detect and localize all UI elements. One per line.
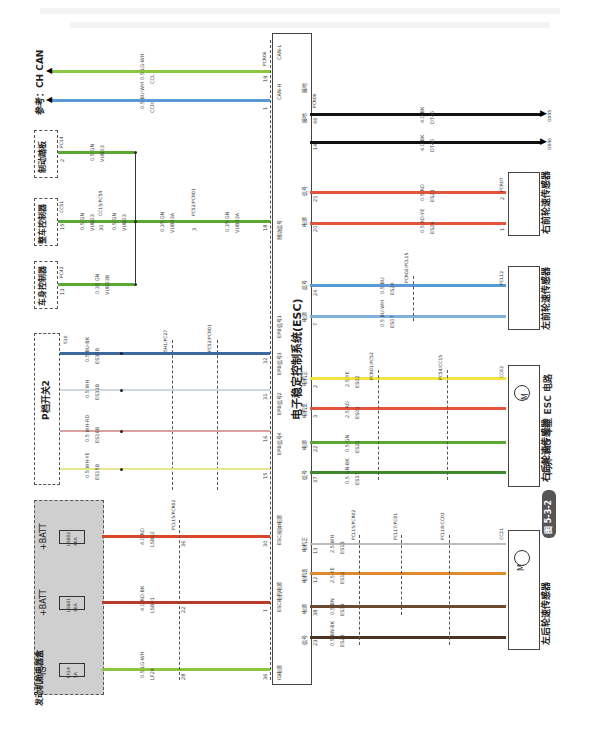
fuse-name: LSB01 — [67, 598, 72, 612]
wire-circuit: ES02 — [355, 375, 360, 388]
connector-dashed-line — [449, 535, 450, 645]
wire-spec: 0.5 WH-RD — [85, 415, 90, 442]
pin-label: IG电源 — [277, 665, 282, 680]
pin-label: 电机负 — [302, 568, 307, 583]
wire-spec: 0.35 GN — [225, 212, 230, 232]
fuse-lsb01-icon — [59, 596, 85, 610]
wire-circuit: DT46 — [430, 139, 435, 152]
esc-connector-dashed-line — [270, 40, 271, 680]
wire-circuit: VUB03 — [90, 214, 95, 231]
wire-rf-signal[interactable] — [310, 191, 506, 194]
wire-epb3[interactable] — [60, 389, 270, 391]
wire-spec: 0.5 BU — [380, 277, 385, 294]
pin-label: 制动信号 — [277, 220, 282, 240]
motor-icon: M — [514, 550, 530, 566]
connector-id: PCL18/CC03 — [441, 512, 446, 540]
wire-ground-g046[interactable] — [310, 141, 542, 144]
wire-circuit: VUB03B — [105, 275, 110, 295]
connector-id: CC51 — [60, 201, 65, 213]
pin-label: CAN-L — [277, 45, 282, 60]
module-title: 左前轮速传感器 — [542, 267, 551, 330]
wire-can-h[interactable] — [52, 99, 270, 102]
wire-rf-power[interactable] — [310, 222, 506, 225]
pin-number: 36 — [263, 674, 268, 680]
pin-number: 3 — [313, 415, 318, 418]
pin-label: EPB信号1 — [277, 315, 282, 338]
wire-lf-signal[interactable] — [310, 284, 506, 287]
wire-circuit: VUB03 — [100, 145, 105, 162]
fuse-rating: 40A — [74, 537, 79, 546]
splice-dot — [120, 430, 123, 433]
wire-lf-power[interactable] — [310, 315, 506, 318]
wire-spec: 0.5 WH — [85, 380, 90, 398]
fuse-supply-label: +BATT — [40, 523, 48, 550]
wire-rr-signal[interactable] — [310, 471, 506, 474]
pin-number: 2 — [313, 385, 318, 388]
wire-valve-power[interactable] — [102, 535, 270, 538]
wire-spec: 0.5 RD-YE — [420, 209, 425, 233]
ground-icon: ▶ — [540, 136, 547, 146]
module-title: 制动踏板 — [39, 141, 47, 173]
wire-rr-motor-neg[interactable] — [310, 407, 506, 410]
wire-spec: 0.35 GN — [95, 274, 100, 294]
wire-circuit: VUB03A — [235, 213, 240, 233]
splice-dot — [120, 468, 123, 471]
module-title: 发动机舱电器盒 — [36, 650, 44, 706]
connector-id: PCR06 — [313, 93, 318, 108]
fuse-rating: 5A — [74, 672, 79, 678]
wire-circuit: ES24 — [390, 282, 395, 295]
wire-epb1[interactable] — [60, 352, 270, 355]
connector-dashed-line — [447, 370, 448, 480]
pin-number: 37 — [313, 477, 318, 483]
wire-circuit: CCH — [150, 102, 155, 113]
pin-number: 3 — [192, 228, 197, 231]
wire-circuit: ES03 — [355, 406, 360, 419]
wire-circuit: ES26 — [430, 221, 435, 234]
pin-number: 23 — [313, 640, 318, 646]
pin-label: 电机负 — [302, 403, 307, 418]
wire-circuit: ES13 — [340, 541, 345, 554]
pin-label: 信号 — [302, 470, 307, 480]
wire-rr-motor-pos[interactable] — [310, 377, 506, 380]
pin-number: 20 — [313, 226, 318, 232]
wire-epb4[interactable] — [60, 468, 270, 470]
figure-number-badge: 图 5-3-2 — [542, 490, 556, 538]
wire-circuit: ES15B — [95, 464, 100, 480]
splice-dot — [134, 283, 137, 286]
wire-ground-g045[interactable] — [310, 113, 542, 116]
wire-spec: 4.0 RD — [140, 528, 145, 545]
connector-id: S16 — [64, 335, 69, 344]
wire-spec: 0.5 WH-YE — [85, 452, 90, 478]
wire-motor-power[interactable] — [102, 601, 270, 604]
wire-spec: 0.5 RD — [420, 184, 425, 201]
pin-label: 信号 — [302, 186, 307, 196]
wire-epb2[interactable] — [60, 430, 270, 432]
wire-circuit: ES21 — [430, 189, 435, 202]
fuse-lsb02-icon — [59, 530, 85, 544]
ghost-text-line — [70, 22, 550, 28]
figure-caption: 问界 M5 车型 ESC 电路 — [544, 374, 553, 475]
wire-spec: 0.5 GN — [90, 144, 95, 161]
connector-id: CC15/PC54 — [99, 191, 104, 216]
connector-id: PC14 — [60, 136, 65, 148]
wire-spec: 2.5 YE — [330, 567, 335, 583]
splice-dot — [134, 220, 137, 223]
ground-id: G046 — [548, 138, 553, 150]
wire-spec: 2.5 RD — [345, 401, 350, 418]
wire-spec: 4.0 BK — [420, 135, 425, 151]
wire-circuit: ES22 — [355, 440, 360, 453]
wire-ig-power[interactable] — [102, 668, 270, 671]
pin-label: 电源 — [302, 312, 307, 322]
arrow-left-icon: ◀ — [46, 66, 52, 75]
pin-label: 电机正 — [302, 537, 307, 552]
connector-dashed-line — [359, 535, 360, 645]
connector-id: PCL15/PCR02 — [172, 500, 177, 530]
connector-id: PC52/PCR01 — [192, 188, 197, 216]
wire-brake-pedal[interactable] — [58, 151, 134, 154]
wire-can-l[interactable] — [52, 70, 270, 73]
wire-rr-power[interactable] — [310, 441, 506, 444]
wire-spec: 2.5 YE — [345, 371, 350, 387]
pin-number: 1 — [500, 228, 505, 231]
wire-circuit: ES12 — [340, 571, 345, 584]
pin-number: 19 — [263, 76, 268, 82]
